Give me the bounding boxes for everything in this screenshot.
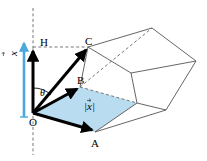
label-point-c: C (85, 36, 92, 47)
blue-vector-x-arrow (20, 43, 28, 117)
label-point-b: B (77, 75, 84, 86)
label-vector-x-glyph: x (7, 51, 19, 56)
label-magnitude-x-glyph: |x| (84, 100, 95, 112)
dashed-construction-lines (33, 8, 152, 155)
diagram-canvas (0, 0, 207, 161)
label-vector-x: x (4, 51, 20, 56)
label-origin: O (29, 117, 37, 128)
label-point-a: A (91, 138, 99, 149)
label-point-h: H (40, 37, 48, 48)
vector-diagram-figure: O A B C H θ x |x| (0, 0, 207, 161)
label-angle-theta: θ (40, 88, 45, 98)
label-magnitude-x: |x| (84, 101, 95, 112)
